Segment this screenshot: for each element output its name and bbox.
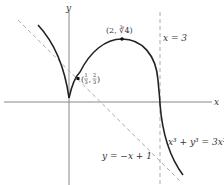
y-axis-label: y <box>65 3 72 13</box>
svg-text:1: 1 <box>85 72 88 78</box>
inflection-point-label: ( 1 3 , 2 3 ) <box>81 72 100 85</box>
curve-left-branch <box>38 25 69 98</box>
max-point-label: (2, ∛4) <box>106 25 133 35</box>
x-axis-label: x <box>214 97 219 107</box>
inflection-point <box>77 77 80 80</box>
svg-text:2: 2 <box>93 72 96 78</box>
curve-plot: y x (2, ∛4) x = 3 x³ + y³ = 3x² y = −x +… <box>0 0 224 185</box>
svg-text:3: 3 <box>85 79 88 85</box>
max-point <box>120 37 124 41</box>
svg-text:,: , <box>89 75 92 84</box>
slant-asymptote-label: y = −x + 1 <box>101 151 152 161</box>
curve-equation-label: x³ + y³ = 3x² <box>168 137 224 147</box>
svg-text:): ) <box>97 75 100 84</box>
vertical-asymptote-label: x = 3 <box>163 33 187 43</box>
svg-text:3: 3 <box>93 79 96 85</box>
